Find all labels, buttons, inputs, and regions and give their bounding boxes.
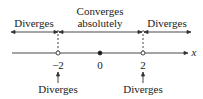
middle-region-arrow bbox=[59, 31, 142, 34]
tick-label-neg2: −2 bbox=[52, 60, 64, 71]
left-region-arrow bbox=[11, 31, 58, 34]
region-label-middle-line2: absolutely bbox=[77, 18, 122, 29]
tick-label-2: 2 bbox=[140, 60, 146, 71]
up-arrow-right bbox=[142, 72, 145, 83]
region-label-right: Diverges bbox=[147, 18, 187, 29]
right-region-arrow bbox=[144, 31, 191, 34]
axis-label-x: x bbox=[192, 47, 197, 58]
region-label-left: Diverges bbox=[14, 18, 54, 29]
tick-label-0: 0 bbox=[97, 60, 103, 71]
endpoint-note-right: Diverges bbox=[123, 84, 163, 95]
open-circle-marker-neg2 bbox=[56, 51, 60, 55]
open-circle-marker-2 bbox=[141, 51, 145, 55]
filled-dot-marker-0 bbox=[98, 51, 102, 55]
endpoint-note-left: Diverges bbox=[38, 84, 78, 95]
up-arrow-left bbox=[57, 72, 60, 83]
x-axis-arrowhead bbox=[184, 52, 188, 55]
region-label-middle-line1: Converges bbox=[77, 6, 124, 17]
